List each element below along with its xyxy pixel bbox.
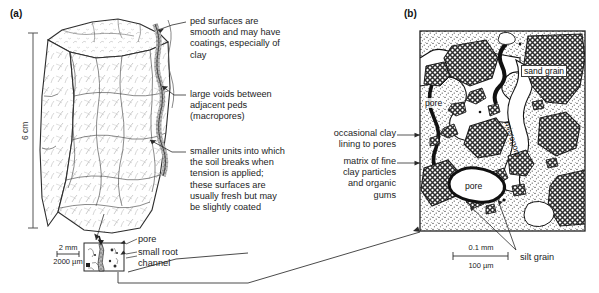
figure-soil-structure: (a) (b) 6 cm ped surfaces are smooth and… xyxy=(0,0,599,293)
label-sand-grain: sand grain xyxy=(521,65,567,77)
inset-label-pore: pore xyxy=(138,234,198,245)
callout-large-voids: large voids between adjacent peds (macro… xyxy=(190,89,315,123)
callout-matrix-of-fine-clay: matrix of fine clay particles and organi… xyxy=(310,156,396,201)
panel-letter-b: (b) xyxy=(404,8,417,19)
callout-silt-grain: silt grain xyxy=(520,252,590,263)
scale-label-6cm: 6 cm xyxy=(20,122,30,140)
label-pore-upper-left: pore xyxy=(424,98,443,108)
panel-b-scale-bar xyxy=(453,252,508,260)
inset-scale-2mm: 2 mm xyxy=(47,243,89,252)
soil-ped-block-drawing xyxy=(40,19,174,233)
panel-b-thin-section xyxy=(420,31,585,231)
callout-occasional-clay-lining: occasional clay lining to pores xyxy=(310,128,396,150)
panel-b-scale-0-1mm: 0.1 mm xyxy=(452,243,510,252)
inset-scale-2000um: 2000 µm xyxy=(39,257,97,266)
label-pore-lower: pore xyxy=(464,181,483,191)
panel-letter-a: (a) xyxy=(10,8,22,19)
callout-ped-surfaces: ped surfaces are smooth and may have coa… xyxy=(190,16,310,61)
panel-b-scale-100um: 100 µm xyxy=(452,261,510,270)
inset-label-small-root-channel: small root channel xyxy=(138,247,200,269)
callout-smaller-units: smaller units into which the soil breaks… xyxy=(190,146,320,213)
